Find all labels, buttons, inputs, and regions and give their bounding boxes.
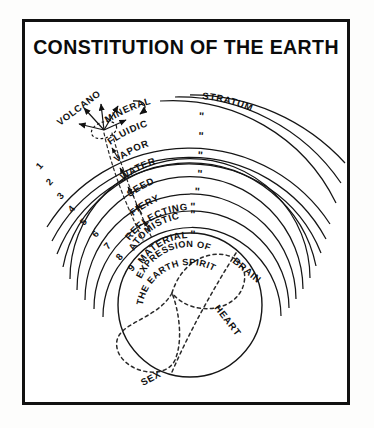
heart-label: HEART [212,302,243,338]
layer-number-2: 2 [43,176,55,187]
sex-label: SEX [139,368,163,388]
stratum-ditto-6: " [194,185,201,197]
layer-number-6: 6 [89,228,101,239]
page-root: CONSTITUTION OF THE EARTH [0,0,374,428]
layer-number-1: 1 [33,160,45,172]
stratum-ditto-9: " [190,228,197,240]
stratum-ditto-5: " [197,167,204,180]
stratum-column: STRATUM " " " " " " " " [190,90,255,240]
arc-layer-1 [47,148,330,227]
lemniscate-lower-loop [117,293,180,372]
layer-number-4: 4 [65,203,77,215]
stratum-ditto-3: " [198,129,205,141]
arc-layer-4 [63,163,316,267]
earth-constitution-diagram: VOLCANO MINERAL FLUIDIC VAPOR WATER SEED… [0,0,374,428]
stratum-ditto-2: " [198,110,205,122]
brain-label: BRAIN [231,255,264,285]
volcano-arrow-left [79,124,104,130]
stratum-header: STRATUM [202,90,255,113]
stratum-ditto-4: " [197,149,204,161]
stratum-ditto-8: " [190,208,196,220]
volcano-label: VOLCANO [55,88,103,128]
layer-number-3: 3 [54,190,66,201]
layer-number-7: 7 [101,240,113,251]
layer-name-labels: MINERAL FLUIDIC VAPOR WATER SEED FIERY R… [103,95,189,265]
arc-outer-extra-1 [160,101,336,203]
